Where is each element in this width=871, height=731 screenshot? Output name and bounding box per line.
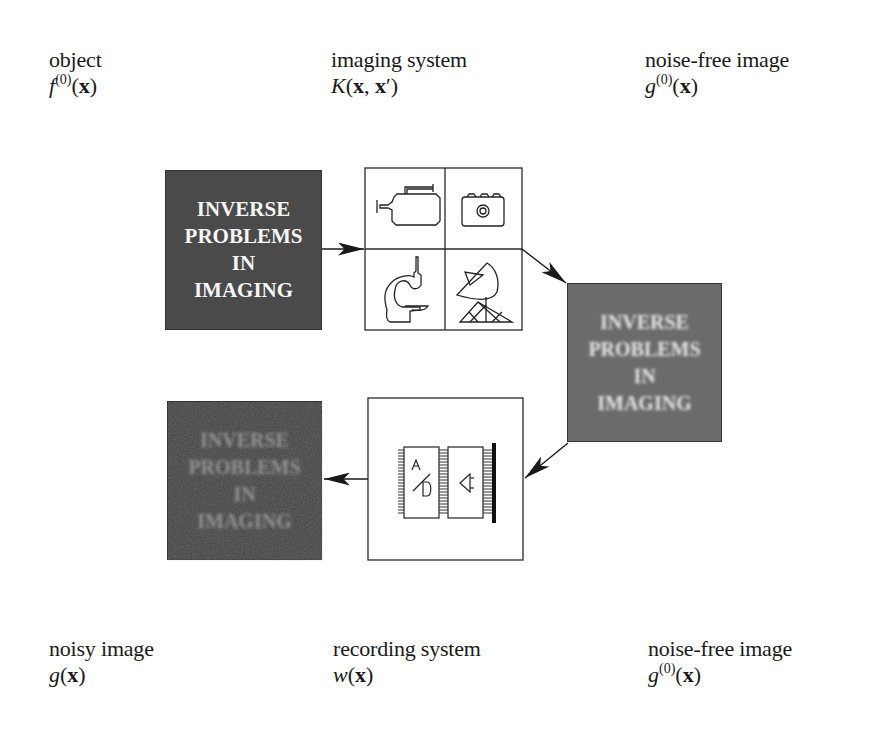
recording-system-box: [368, 398, 523, 560]
video-camera-icon: [377, 184, 440, 225]
chip-pins: [398, 450, 492, 513]
photo-camera-icon: [462, 194, 504, 226]
ad-converter-chip-icon: [404, 447, 439, 518]
imaging-system-box: [365, 168, 522, 330]
amplifier-chip-icon: [448, 447, 483, 518]
diagram-canvas: [0, 0, 871, 731]
microscope-icon: [385, 257, 428, 322]
arrow-imaging-to-noise-free: [522, 249, 566, 283]
arrow-noise-free-to-recording: [525, 443, 568, 478]
sensor-bar-icon: [492, 443, 496, 523]
satellite-dish-icon: [457, 263, 512, 322]
